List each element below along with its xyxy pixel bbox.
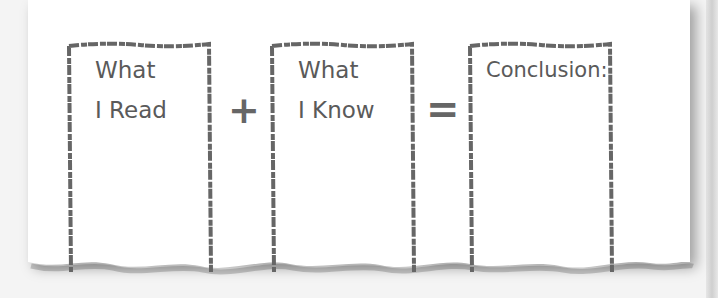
box-label: WhatI Read bbox=[95, 50, 167, 130]
what-i-know-box: WhatI Know bbox=[268, 40, 414, 275]
box-label: Conclusion: bbox=[486, 50, 608, 90]
conclusion-box: Conclusion: bbox=[466, 40, 612, 275]
equals-icon: = bbox=[426, 86, 460, 132]
what-i-read-box: WhatI Read bbox=[65, 40, 211, 275]
plus-icon: + bbox=[228, 88, 260, 132]
box-label: WhatI Know bbox=[298, 50, 375, 130]
